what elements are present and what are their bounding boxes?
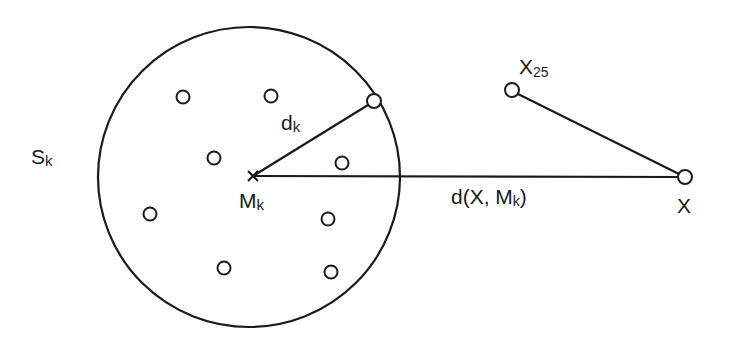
member-point [218, 262, 231, 275]
query-label: X [677, 194, 691, 217]
member-point [177, 91, 190, 104]
radius-endpoint [367, 94, 381, 108]
member-points [144, 83, 693, 279]
member-point [336, 157, 349, 170]
distance-line [253, 176, 678, 177]
member-point [144, 208, 157, 221]
radius-label: dk [281, 111, 301, 135]
sphere-label: Sk [31, 145, 53, 169]
center-label: Mk [239, 189, 265, 213]
member-point [265, 90, 278, 103]
neighbor-point [505, 83, 519, 97]
neighbor-label: X25 [519, 55, 549, 80]
neighbor-line [518, 94, 679, 174]
query-point [678, 170, 692, 184]
diagram-canvas: Sk dk Mk X25 d(X, Mk) X [0, 0, 731, 339]
member-point [208, 152, 221, 165]
radius-line [253, 105, 368, 176]
member-point [322, 213, 335, 226]
distance-label: d(X, Mk) [451, 185, 527, 209]
member-point [325, 266, 338, 279]
